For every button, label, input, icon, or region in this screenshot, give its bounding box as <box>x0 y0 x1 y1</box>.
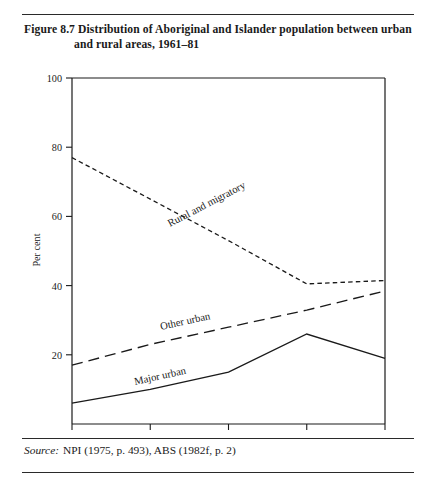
figure-mid-rule <box>22 438 414 439</box>
y-tick-label-20: 20 <box>52 350 62 361</box>
source-label: Source: <box>24 444 59 456</box>
figure-caption: Figure 8.7 Distribution of Aboriginal an… <box>24 22 412 53</box>
series-line-other-urban <box>72 291 385 365</box>
series-label-rural-and-migratory: Rural and migratory <box>166 179 248 229</box>
series-label-other-urban: Other urban <box>159 310 212 332</box>
figure-number: Figure 8.7 <box>24 23 75 36</box>
figure-source: Source:NPI (1975, p. 493), ABS (1982f, p… <box>24 444 236 458</box>
y-tick-label-40: 40 <box>52 281 62 292</box>
y-tick-label-80: 80 <box>52 142 62 153</box>
figure-caption-line-1: Distribution of Aboriginal and Islander … <box>78 23 412 36</box>
y-tick-label-100: 100 <box>47 73 62 84</box>
x-axis-ticks <box>72 424 385 430</box>
series-line-major-urban <box>72 334 385 403</box>
figure-container: Figure 8.7 Distribution of Aboriginal an… <box>22 14 414 474</box>
figure-top-rule <box>22 14 414 15</box>
figure-bottom-rule <box>22 472 414 473</box>
figure-caption-line-2: and rural areas, 1961–81 <box>24 37 412 52</box>
y-axis-ticks <box>66 78 72 355</box>
y-axis-title: Per cent <box>31 233 42 266</box>
y-tick-label-60: 60 <box>52 211 62 222</box>
chart-plot-area: 100 80 60 40 20 Rural and migratory O <box>22 60 414 432</box>
source-text: NPI (1975, p. 493), ABS (1982f, p. 2) <box>63 444 236 456</box>
line-chart: 100 80 60 40 20 Rural and migratory O <box>22 60 414 432</box>
series-line-rural-and-migratory <box>72 158 385 284</box>
